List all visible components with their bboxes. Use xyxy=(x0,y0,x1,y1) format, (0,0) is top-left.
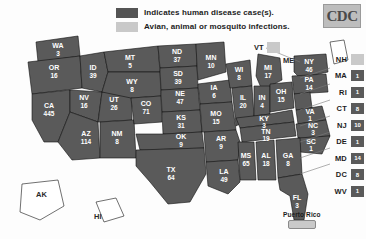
west-nile-virus-activity-map: Indicates human disease case(s). Avian, … xyxy=(0,0,366,239)
state-value-MN: 10 xyxy=(207,62,215,69)
callout-abbr-NJ: NJ xyxy=(337,121,347,130)
state-label-IN: IN xyxy=(259,94,266,101)
callout-row-MA[interactable]: MA 1 xyxy=(306,69,364,83)
callout-abbr-CT: CT xyxy=(337,104,347,113)
callout-abbr-DE: DE xyxy=(336,137,347,146)
state-label-IA: IA xyxy=(211,84,218,91)
state-label-OH: OH xyxy=(276,88,287,95)
state-label-ID: ID xyxy=(90,64,97,71)
state-value-GA: 8 xyxy=(286,160,290,167)
puerto-rico-shape xyxy=(288,220,316,229)
state-label-TN: TN xyxy=(261,128,270,135)
state-label-KY: KY xyxy=(259,115,269,122)
callout-value-MA: 1 xyxy=(351,70,364,81)
state-value-AZ: 114 xyxy=(81,138,92,145)
callout-value-WV: 1 xyxy=(351,186,364,197)
callout-value-DE: 1 xyxy=(351,136,364,147)
callout-value-CT: 8 xyxy=(351,103,364,114)
state-value-NE: 47 xyxy=(176,98,184,105)
callout-row-MD[interactable]: MD 14 xyxy=(306,151,364,165)
state-label-TX: TX xyxy=(167,166,176,173)
state-label-ME: ME xyxy=(283,56,294,65)
state-value-WA: 3 xyxy=(56,50,60,57)
callout-abbr-DC: DC xyxy=(336,170,347,179)
state-value-MT: 5 xyxy=(128,62,132,69)
state-OK[interactable] xyxy=(136,132,204,150)
state-value-FL: 3 xyxy=(295,202,299,209)
state-label-KS: KS xyxy=(176,114,186,121)
state-label-NE: NE xyxy=(175,90,185,97)
state-callout-list: NH MA 1 RI 1 CT 8 NJ 10 DE 1 MD 14 DC 8 xyxy=(306,52,364,201)
puerto-rico-label: Puerto Rico xyxy=(283,211,321,218)
cdc-logo-text: CDC xyxy=(327,8,358,25)
state-label-AZ: AZ xyxy=(81,130,91,137)
state-value-WY: 8 xyxy=(130,86,134,93)
vt-marker[interactable]: VT xyxy=(254,42,280,53)
state-value-IN: 4 xyxy=(260,102,264,109)
state-value-OK: 9 xyxy=(179,141,183,148)
state-value-OR: 16 xyxy=(50,72,58,79)
state-label-WI: WI xyxy=(235,66,244,73)
callout-row-NH[interactable]: NH xyxy=(306,52,364,66)
state-value-CO: 71 xyxy=(142,108,150,115)
state-label-NV: NV xyxy=(79,94,89,101)
callout-row-WV[interactable]: WV 1 xyxy=(306,184,364,198)
state-WY[interactable] xyxy=(102,72,161,98)
vt-abbr-label: VT xyxy=(254,43,264,52)
state-label-WA: WA xyxy=(52,42,63,49)
callout-abbr-RI: RI xyxy=(339,88,347,97)
callout-abbr-MD: MD xyxy=(335,154,347,163)
state-value-CA: 445 xyxy=(44,110,55,117)
state-label-LA: LA xyxy=(219,168,228,175)
state-value-SD: 39 xyxy=(174,78,182,85)
state-label-OR: OR xyxy=(49,64,60,71)
state-IN[interactable] xyxy=(254,86,270,116)
state-label-MI: MI xyxy=(264,64,272,71)
state-label-HI: HI xyxy=(94,212,102,221)
legend-label-human-case: Indicates human disease case(s). xyxy=(144,8,274,17)
callout-row-NJ[interactable]: NJ 10 xyxy=(306,118,364,132)
state-label-UT: UT xyxy=(109,96,119,103)
state-label-FL: FL xyxy=(293,194,302,201)
state-value-ND: 37 xyxy=(173,56,181,63)
state-value-NM: 8 xyxy=(115,138,119,145)
state-label-MO: MO xyxy=(210,110,222,117)
state-value-MO: 15 xyxy=(212,118,220,125)
state-label-ND: ND xyxy=(172,48,182,55)
state-label-AL: AL xyxy=(261,152,271,159)
callout-row-RI[interactable]: RI 1 xyxy=(306,85,364,99)
state-value-AR: 9 xyxy=(219,143,223,150)
state-value-AL: 18 xyxy=(262,160,270,167)
callout-row-DE[interactable]: DE 1 xyxy=(306,135,364,149)
state-label-NM: NM xyxy=(112,130,123,137)
callout-value-RI: 1 xyxy=(351,87,364,98)
state-value-WI: 8 xyxy=(237,74,241,81)
state-label-SD: SD xyxy=(173,70,183,77)
state-AK[interactable] xyxy=(20,180,64,220)
state-MO[interactable] xyxy=(200,102,236,132)
callout-row-CT[interactable]: CT 8 xyxy=(306,102,364,116)
puerto-rico-group[interactable]: Puerto Rico xyxy=(283,211,321,229)
state-MN[interactable] xyxy=(196,42,226,80)
state-value-MS: 65 xyxy=(242,160,250,167)
legend-item-human-case: Indicates human disease case(s). xyxy=(116,6,306,19)
state-label-AK: AK xyxy=(36,190,47,199)
state-value-KS: 31 xyxy=(177,122,185,129)
state-value-TN: 19 xyxy=(262,135,270,142)
state-label-MS: MS xyxy=(241,152,252,159)
state-label-OK: OK xyxy=(176,133,187,140)
state-label-MT: MT xyxy=(125,54,136,61)
state-value-MI: 17 xyxy=(264,72,272,79)
vt-status-box xyxy=(267,42,280,53)
callout-abbr-MA: MA xyxy=(335,71,347,80)
state-value-TX: 64 xyxy=(167,174,175,181)
state-label-GA: GA xyxy=(283,152,294,159)
state-label-WY: WY xyxy=(126,78,138,85)
callout-row-DC[interactable]: DC 8 xyxy=(306,168,364,182)
state-value-IA: 6 xyxy=(212,92,216,99)
state-value-IL: 20 xyxy=(239,102,247,109)
callout-value-NH xyxy=(351,54,364,65)
state-value-OH: 15 xyxy=(277,96,285,103)
callout-value-DC: 8 xyxy=(351,169,364,180)
callout-value-NJ: 10 xyxy=(351,120,364,131)
